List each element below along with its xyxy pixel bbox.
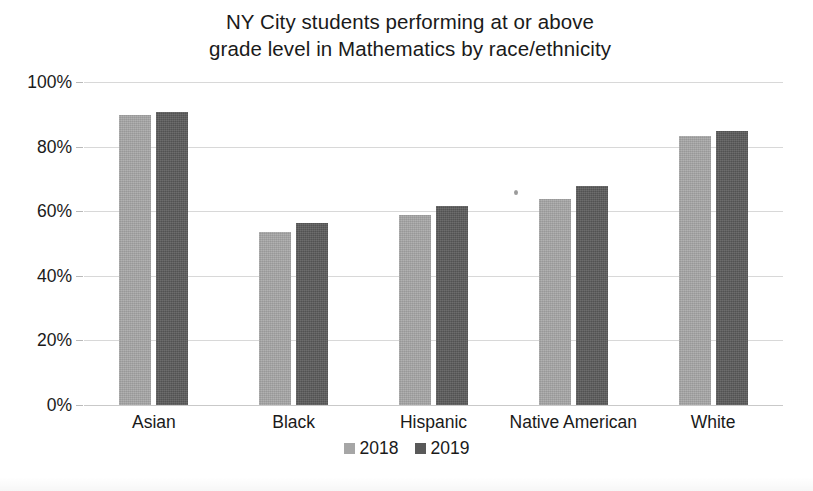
y-axis-tick-mark — [76, 276, 83, 277]
x-axis-category-label: Asian — [132, 412, 176, 433]
bar-native-american-2018 — [539, 199, 571, 405]
legend-entry-2018[interactable]: 2018 — [344, 440, 399, 458]
y-axis-tick-label: 0% — [8, 395, 72, 416]
chart-title: NY City students performing at or above … — [60, 8, 760, 62]
y-axis-tick-label: 80% — [8, 136, 72, 157]
legend-swatch-icon — [415, 443, 426, 454]
y-axis-tick-label: 60% — [8, 201, 72, 222]
bar-white-2018 — [679, 136, 711, 405]
bar-hispanic-2018 — [399, 215, 431, 405]
y-axis-tick-label: 40% — [8, 265, 72, 286]
y-axis-tick-mark — [76, 147, 83, 148]
bar-asian-2018 — [119, 115, 151, 405]
y-axis-tick-mark — [76, 82, 83, 83]
bar-white-2019 — [716, 131, 748, 405]
y-axis-tick-label: 20% — [8, 330, 72, 351]
bar-black-2018 — [259, 232, 291, 405]
x-axis-category-label: Black — [272, 412, 315, 433]
paper-edge-shading — [0, 477, 813, 491]
y-axis-tick-label: 100% — [8, 72, 72, 93]
gridline — [84, 405, 783, 406]
chart-legend: 20182019 — [0, 440, 813, 458]
y-axis-tick-mark — [76, 405, 83, 406]
y-axis-tick-mark — [76, 211, 83, 212]
plot-area — [84, 82, 783, 405]
x-axis-category-label: White — [691, 412, 736, 433]
bar-hispanic-2019 — [436, 206, 468, 405]
bar-black-2019 — [296, 223, 328, 405]
legend-label: 2018 — [360, 440, 399, 458]
legend-label: 2019 — [431, 440, 470, 458]
y-axis-tick-mark — [76, 340, 83, 341]
bar-chart: NY City students performing at or above … — [0, 0, 813, 491]
legend-swatch-icon — [344, 443, 355, 454]
x-axis-category-label: Native American — [510, 412, 637, 433]
bar-native-american-2019 — [576, 186, 608, 405]
scan-artifact-speck — [514, 190, 518, 195]
x-axis-category-label: Hispanic — [400, 412, 467, 433]
bar-asian-2019 — [156, 112, 188, 405]
legend-entry-2019[interactable]: 2019 — [415, 440, 470, 458]
gridline — [84, 82, 783, 83]
